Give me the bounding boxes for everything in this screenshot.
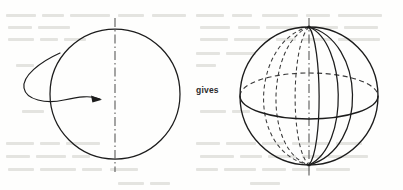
- meridians-front: [309, 27, 353, 165]
- meridian-back-3: [295, 27, 309, 165]
- meridian-back-1: [264, 27, 309, 165]
- south-pole-point: [307, 163, 310, 166]
- sphere-group: [240, 18, 378, 176]
- rotation-figure: gives: [0, 0, 403, 190]
- meridian-front-2: [309, 27, 338, 165]
- gives-label: gives: [196, 85, 219, 95]
- rotation-arrow: [24, 53, 102, 103]
- north-pole-point: [307, 25, 310, 28]
- meridian-front-1: [309, 27, 319, 165]
- meridians-back: [264, 27, 309, 165]
- meridian-back-2: [276, 27, 309, 165]
- left-circle-group: [24, 18, 180, 172]
- diagram-canvas: [0, 0, 403, 190]
